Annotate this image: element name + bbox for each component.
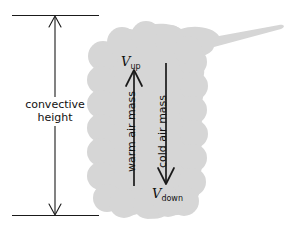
convective-height-label: convective height — [0, 99, 110, 125]
cold-air-mass-label: cold air mass — [156, 95, 169, 168]
cumulonimbus-cloud — [87, 21, 284, 219]
convective-height-label-line2: height — [0, 112, 110, 125]
figure-canvas: convective height Vup Vdown warm air mas… — [0, 0, 288, 230]
v-up-label: Vup — [121, 54, 141, 72]
v-up-subscript: up — [130, 62, 140, 71]
warm-air-mass-label: warm air mass — [125, 91, 138, 172]
v-up-symbol: V — [121, 54, 130, 69]
v-down-label: Vdown — [152, 186, 183, 204]
v-down-symbol: V — [152, 186, 161, 201]
convective-height-label-line1: convective — [25, 98, 85, 111]
v-down-subscript: down — [161, 194, 183, 203]
